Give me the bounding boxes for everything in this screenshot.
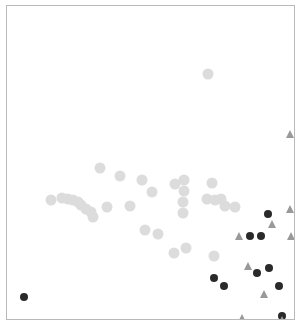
data-point-circle	[209, 251, 220, 262]
plot-frame	[6, 5, 295, 320]
data-point-circle	[125, 201, 136, 212]
data-point-triangle	[286, 130, 294, 138]
figure-bottom-margin	[0, 321, 306, 333]
data-point-circle	[179, 186, 190, 197]
plot-area	[7, 6, 294, 319]
data-point-circle	[147, 187, 158, 198]
data-point-circle	[207, 178, 218, 189]
data-point-circle	[210, 274, 218, 282]
data-point-circle	[253, 269, 261, 277]
data-point-circle	[140, 225, 151, 236]
data-point-circle	[275, 282, 283, 290]
data-point-circle	[95, 163, 106, 174]
data-point-triangle	[278, 316, 286, 320]
data-point-circle	[203, 69, 214, 80]
data-point-circle	[46, 195, 57, 206]
data-point-circle	[178, 197, 189, 208]
data-point-circle	[102, 202, 113, 213]
data-point-circle	[153, 229, 164, 240]
data-point-triangle	[287, 232, 295, 240]
data-point-triangle	[238, 314, 246, 320]
data-point-circle	[88, 212, 99, 223]
data-point-circle	[137, 175, 148, 186]
data-point-triangle	[260, 290, 268, 298]
scatter-plot-figure	[0, 0, 306, 333]
data-point-circle	[169, 248, 180, 259]
data-point-circle	[230, 202, 241, 213]
data-point-circle	[179, 175, 190, 186]
data-point-circle	[115, 171, 126, 182]
data-point-circle	[265, 264, 273, 272]
data-point-triangle	[286, 205, 294, 213]
data-point-circle	[246, 232, 254, 240]
data-point-circle	[20, 293, 28, 301]
data-point-circle	[257, 232, 265, 240]
data-point-circle	[181, 243, 192, 254]
data-point-triangle	[244, 262, 252, 270]
data-point-circle	[220, 282, 228, 290]
data-point-triangle	[268, 220, 276, 228]
data-point-circle	[264, 210, 272, 218]
data-point-triangle	[235, 232, 243, 240]
data-point-circle	[178, 208, 189, 219]
